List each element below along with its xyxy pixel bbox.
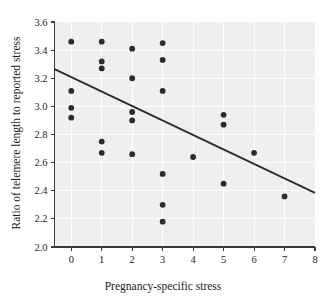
data-point	[99, 39, 105, 45]
data-point	[68, 88, 74, 94]
data-point	[129, 75, 135, 81]
data-point	[160, 57, 166, 63]
y-tick-label: 2.6	[34, 157, 47, 168]
data-point	[221, 122, 227, 128]
y-tick-label: 2.0	[34, 242, 47, 253]
data-point	[129, 109, 135, 115]
data-point	[160, 219, 166, 225]
y-tick-label: 3.2	[34, 73, 47, 84]
y-tick-label: 3.0	[34, 101, 47, 112]
data-point	[160, 202, 166, 208]
x-tick-label: 1	[99, 254, 104, 265]
data-point	[160, 88, 166, 94]
data-point	[160, 171, 166, 177]
data-point	[99, 58, 105, 64]
data-point	[99, 139, 105, 145]
data-point	[190, 154, 196, 160]
data-point	[68, 39, 74, 45]
data-point	[129, 151, 135, 157]
data-point	[251, 150, 257, 156]
y-tick-label: 3.4	[34, 45, 48, 56]
y-tick-labels: 2.02.22.42.62.83.03.23.43.6	[34, 17, 48, 253]
data-point	[282, 193, 288, 199]
x-tick-label: 2	[130, 254, 135, 265]
x-tick-label: 8	[312, 254, 317, 265]
y-tick-label: 2.8	[34, 129, 47, 140]
y-axis-label: Ratio of telemere length to reported str…	[10, 36, 23, 229]
y-tick-label: 3.6	[34, 17, 47, 28]
x-tick-label: 6	[251, 254, 256, 265]
data-point	[129, 118, 135, 124]
data-point	[68, 115, 74, 121]
x-axis-label: Pregnancy-specific stress	[105, 280, 222, 293]
data-point	[99, 150, 105, 156]
data-point	[221, 181, 227, 187]
x-tick-label: 5	[221, 254, 226, 265]
scatter-plot-figure: 012345678 2.02.22.42.62.83.03.23.43.6 Pr…	[0, 0, 327, 298]
data-point	[68, 105, 74, 111]
data-point	[99, 66, 105, 72]
x-tick-label: 7	[282, 254, 287, 265]
x-tick-label: 3	[160, 254, 165, 265]
data-point	[160, 40, 166, 46]
data-point	[129, 46, 135, 52]
data-point	[221, 112, 227, 118]
y-tick-label: 2.4	[34, 185, 48, 196]
x-tick-label: 0	[69, 254, 74, 265]
y-tick-label: 2.2	[34, 213, 47, 224]
chart-canvas: 012345678 2.02.22.42.62.83.03.23.43.6 Pr…	[0, 0, 327, 298]
x-tick-label: 4	[191, 254, 197, 265]
